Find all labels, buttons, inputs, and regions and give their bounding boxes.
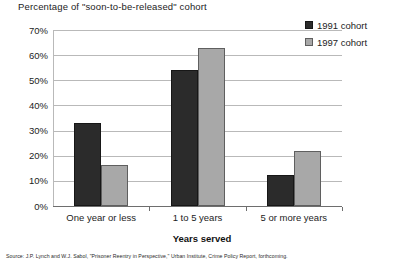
y-axis-tick-label: 20% [10,151,48,160]
x-axis-title: Years served [0,233,404,244]
x-axis-tick [246,207,247,211]
bar-0-0 [74,123,101,206]
legend-item-label: 1997 cohort [317,37,367,48]
chart-title: Percentage of "soon-to-be-released" coho… [18,1,207,12]
y-axis-tick-label: 60% [10,51,48,60]
x-axis-line [53,206,342,207]
y-axis-tick-label: 50% [10,76,48,85]
source-note: Source: J.P. Lynch and W.J. Sabol, "Pris… [6,253,404,259]
y-axis-tick-label: 70% [10,26,48,35]
bar-0-2 [267,175,294,206]
legend-swatch-icon [305,38,313,46]
bar-1-1 [198,48,225,206]
x-axis-tick-label: One year or less [53,212,149,223]
bar-1-2 [294,151,321,206]
y-axis-tick-label: 30% [10,126,48,135]
y-axis-tick-label: 10% [10,176,48,185]
x-axis-tick-label: 5 or more years [246,212,342,223]
legend-item-series-0: 1991 cohort [305,18,367,32]
bar-chart: Percentage of "soon-to-be-released" coho… [0,0,404,262]
gridline [53,30,342,31]
y-axis-tick-label: 40% [10,101,48,110]
y-axis-line [53,30,54,206]
y-axis-tick-label: 0% [10,202,48,211]
x-axis-tick [342,207,343,211]
legend: 1991 cohort 1997 cohort [305,18,367,52]
legend-item-series-1: 1997 cohort [305,35,367,49]
x-axis-tick [149,207,150,211]
legend-swatch-icon [305,21,313,29]
bar-1-0 [101,165,128,206]
legend-item-label: 1991 cohort [317,20,367,31]
bar-0-1 [171,70,198,206]
x-axis-tick-label: 1 to 5 years [149,212,245,223]
plot-area [53,30,342,206]
